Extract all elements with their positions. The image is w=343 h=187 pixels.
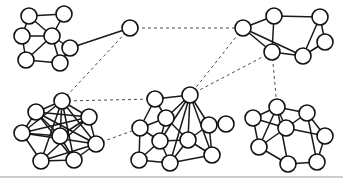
graph-node	[251, 139, 267, 155]
network-canvas	[0, 0, 343, 187]
graph-node	[54, 93, 70, 109]
graph-node	[218, 116, 234, 132]
graph-node	[278, 120, 294, 136]
inter-cluster-edge	[62, 99, 155, 101]
graph-node	[56, 6, 72, 22]
graph-node	[295, 48, 311, 64]
graph-node	[264, 44, 280, 60]
graph-node	[312, 9, 328, 25]
graph-node	[317, 128, 333, 144]
graph-node	[14, 125, 30, 141]
graph-node	[122, 20, 138, 36]
graph-node	[299, 105, 315, 121]
graph-node	[52, 55, 68, 71]
graph-node	[14, 28, 30, 44]
graph-node	[28, 104, 44, 120]
graph-node	[204, 147, 220, 163]
graph-node	[309, 154, 325, 170]
graph-node	[245, 110, 261, 126]
graph-node	[162, 155, 178, 171]
graph-node	[81, 109, 97, 125]
graph-node	[201, 117, 217, 133]
graph-node	[235, 20, 251, 36]
graph-node	[280, 156, 296, 172]
inter-cluster-edge	[190, 28, 243, 95]
graph-node	[21, 8, 37, 24]
graph-node	[147, 91, 163, 107]
graph-node	[18, 52, 34, 68]
intra-cluster-edge-layer	[22, 14, 325, 164]
graph-node	[88, 136, 104, 152]
network-diagram	[0, 0, 343, 187]
inter-cluster-edge	[190, 52, 272, 95]
graph-node	[269, 99, 285, 115]
graph-node	[152, 133, 168, 149]
graph-node	[62, 40, 78, 56]
graph-node	[132, 120, 148, 136]
graph-node	[266, 8, 282, 24]
graph-node	[158, 110, 174, 126]
graph-node	[180, 132, 196, 148]
graph-node	[66, 152, 82, 168]
graph-node	[33, 153, 49, 169]
graph-node	[182, 87, 198, 103]
graph-node	[317, 34, 333, 50]
graph-node	[52, 128, 68, 144]
graph-node	[131, 152, 147, 168]
graph-node	[44, 28, 60, 44]
